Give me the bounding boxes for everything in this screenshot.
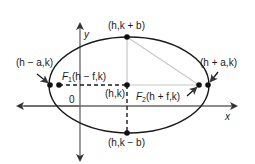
bottom-vertex-label: (h,k − b) [108,137,145,148]
left-vertex-label: (h − a,k) [16,57,53,68]
right-vertex-label: (h + a,k) [200,57,237,68]
center-label: (h,k) [105,88,125,99]
center-point [124,82,130,88]
right-vertex-point [205,82,211,88]
y-axis-label: y [83,29,90,40]
focus1-point [56,82,62,88]
diagram-canvas: y x 0 (h,k + b) (h,k − b) (h,k) (h − a,k… [0,0,255,164]
bottom-vertex-point [124,130,130,136]
x-axis-label: x [224,111,231,122]
focus2-pointer [187,88,196,96]
top-to-f2-line [127,37,199,85]
focus2-label: F2(h + f,k) [136,91,180,103]
left-vertex-point [47,82,53,88]
right-vertex-pointer [211,72,218,81]
left-vertex-pointer [37,74,47,82]
focus1-label: F1(h − f,k) [62,71,106,83]
origin-label: 0 [69,94,75,105]
focus2-point [196,82,202,88]
top-vertex-point [124,34,130,40]
ellipse-diagram: y x 0 (h,k + b) (h,k − b) (h,k) (h − a,k… [0,0,255,164]
top-vertex-label: (h,k + b) [108,20,145,31]
